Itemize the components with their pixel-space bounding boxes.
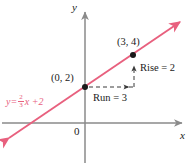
rise-annotation-label: Rise = 2 [140,63,175,74]
coordinate-plane [0,0,191,165]
equation-constant: 2 [38,96,43,107]
line-graph [9,22,180,138]
point-label-3-4: (3, 4) [117,37,140,48]
equation-denominator: 3 [18,102,24,109]
x-axis-label: x [180,130,185,141]
equation-fraction: 23 [18,94,24,110]
point-marker-3-4 [130,52,136,58]
point-marker-0-2 [82,84,88,90]
equation-label: y=23x +2 [6,94,43,110]
graph-figure: y x 0 (0, 2) (3, 4) Run = 3 Rise = 2 y=2… [0,0,191,165]
equation-variable: x [25,96,29,107]
point-label-0-2: (0, 2) [51,73,74,84]
origin-label: 0 [74,126,80,137]
y-axis-label: y [72,2,77,13]
equation-equals: = [10,96,17,107]
run-annotation-label: Run = 3 [93,93,127,104]
